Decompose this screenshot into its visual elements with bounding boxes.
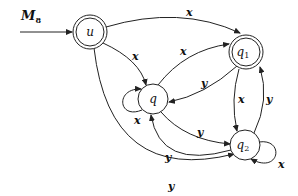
edge-q2-q1	[254, 67, 264, 133]
node-u: u	[73, 15, 107, 49]
edge-q-q1	[158, 44, 229, 85]
edge-label-q-q2: y	[196, 126, 205, 139]
node-q1: q1	[229, 35, 263, 69]
edge-label-u-q2: y	[167, 180, 176, 193]
edge-q-q2	[161, 112, 230, 144]
edge-label-q2-loop: x	[277, 158, 285, 171]
edge-label-q2-q1: y	[265, 93, 274, 106]
edge-label-q-q1: x	[179, 45, 187, 58]
node-q-label: q	[149, 92, 157, 106]
edge-label-u-q1: x	[185, 6, 193, 19]
edge-u-q1	[106, 17, 240, 33]
node-q2: q2	[230, 130, 260, 160]
edge-label-u-q: x	[131, 50, 139, 63]
edge-label-q1-q2: x	[237, 93, 245, 106]
edge-u-q	[103, 43, 146, 85]
edge-label-q-loop: x	[133, 114, 141, 127]
automaton-diagram: M8 x x y x x y y y x y x u q q1	[0, 0, 298, 196]
edge-q2-q	[151, 115, 231, 155]
machine-title: M8	[20, 8, 41, 25]
node-u-label: u	[86, 25, 94, 39]
node-q: q	[138, 84, 168, 114]
